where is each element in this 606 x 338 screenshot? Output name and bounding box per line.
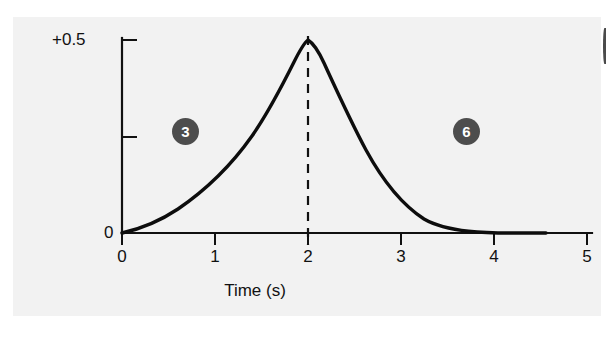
x-tick-label-0: 0 [110,248,134,265]
y-tick-label-upper: +0.5 [52,31,86,48]
x-tick-label-4: 4 [482,248,506,265]
x-tick-label-3: 3 [389,248,413,265]
step-badge-3: 3 [172,118,199,145]
x-axis-title-text: Time (s) [224,281,286,300]
y-tick-label-zero: 0 [104,224,113,241]
figure-root: +0.5 0 0 1 2 3 4 5 Time (s) Change in lu… [0,0,606,338]
x-axis-title: Time (s) [0,281,606,301]
step-badge-6: 6 [453,118,480,145]
x-tick-label-1: 1 [203,248,227,265]
x-tick-label-2: 2 [296,248,320,265]
x-tick-label-5: 5 [575,248,599,265]
